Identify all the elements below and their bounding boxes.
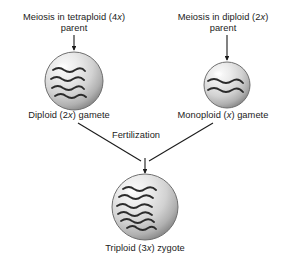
- label-tetraploid-parent: Meiosis in tetraploid (4x) parent: [4, 12, 144, 35]
- label-triploid-zygote: Triploid (3x) zygote: [85, 243, 205, 254]
- label-monoploid-gamete-post: ) gamete: [231, 110, 268, 120]
- fertilization-arrow-right: [149, 123, 213, 161]
- fertilization-arrow-left: [78, 123, 141, 161]
- monoploid-gamete-cell: [204, 62, 250, 108]
- diploid-gamete-cell: [45, 52, 103, 110]
- label-tetraploid-parent-pre: Meiosis in tetraploid (4: [23, 12, 117, 22]
- label-diploid-gamete-post: ) gamete: [73, 110, 110, 120]
- label-monoploid-gamete-pre: Monoploid (: [178, 110, 227, 120]
- label-triploid-zygote-pre: Triploid (3: [105, 243, 147, 253]
- label-diploid-parent: Meiosis in diploid (2x) parent: [160, 12, 286, 35]
- label-diploid-gamete: Diploid (2x) gamete: [4, 110, 134, 121]
- meiosis-fertilization-diagram: Meiosis in tetraploid (4x) parent Meiosi…: [0, 0, 290, 261]
- label-diploid-parent-post: ): [265, 12, 268, 22]
- label-monoploid-gamete: Monoploid (x) gamete: [158, 110, 288, 121]
- label-diploid-parent-pre: Meiosis in diploid (2: [178, 12, 261, 22]
- label-tetraploid-parent-line2: parent: [61, 23, 88, 33]
- triploid-zygote-cell: [112, 174, 178, 240]
- label-fertilization: Fertilization: [98, 130, 174, 141]
- label-diploid-parent-line2: parent: [210, 23, 237, 33]
- label-triploid-zygote-post: ) zygote: [151, 243, 184, 253]
- label-diploid-gamete-pre: Diploid (2: [28, 110, 68, 120]
- label-tetraploid-parent-post: ): [122, 12, 125, 22]
